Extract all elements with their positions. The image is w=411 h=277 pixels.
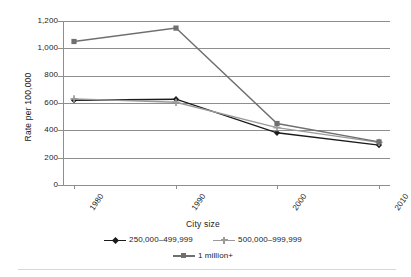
axis-x-line [63,185,390,186]
gridline-200 [63,158,390,159]
legend-item-500k[interactable]: 500,000–999,999 [213,234,302,245]
legend-item-1million[interactable]: 1 million+ [173,250,233,261]
legend-label-1million: 1 million+ [198,251,233,260]
y-tick-1200: 1,200 [22,17,58,25]
square-marker-icon [173,251,195,260]
y-tick-mark-400 [58,130,63,131]
diamond-marker-icon [104,236,126,245]
legend-label-250k: 250,000–499,999 [129,236,193,245]
x-tick-label-2010: 2010 [393,192,411,212]
bottom-divider [18,269,396,270]
legend-row-2: 1 million+ [0,250,406,262]
x-tick-label-1980: 1980 [88,192,106,212]
y-tick-mark-200 [58,158,63,159]
y-axis-line [63,21,64,185]
x-axis-title: City size [0,219,406,229]
legend: 250,000–499,999 500,000–999,999 1 millio… [0,234,406,261]
y-tick-400: 400 [22,126,58,134]
y-tick-600: 600 [22,99,58,107]
legend-item-250k[interactable]: 250,000–499,999 [104,234,193,245]
x-tick-mark-2000 [277,185,278,189]
y-tick-800: 800 [22,71,58,79]
y-tick-mark-600 [58,103,63,104]
legend-row-1: 250,000–499,999 500,000–999,999 [0,234,406,246]
y-tick-mark-1000 [58,48,63,49]
gridline-600 [63,103,390,104]
x-tick-mark-2010 [379,185,380,189]
y-tick-200: 200 [22,154,58,162]
x-tick-label-2000: 2000 [291,192,309,212]
gridline-400 [63,130,390,131]
legend-label-500k: 500,000–999,999 [238,236,302,245]
y-tick-mark-800 [58,76,63,77]
y-tick-1000: 1,000 [22,44,58,52]
y-tick-mark-1200 [58,21,63,22]
y-tick-0: 0 [22,181,58,189]
x-tick-label-1990: 1990 [190,192,208,212]
y-tick-mark-0 [58,185,63,186]
gridline-1000 [63,48,390,49]
plus-marker-icon [213,236,235,245]
gridline-1200 [63,21,390,22]
x-tick-mark-1990 [176,185,177,189]
plot-area [63,21,390,185]
gridline-800 [63,76,390,77]
x-tick-mark-1980 [74,185,75,189]
